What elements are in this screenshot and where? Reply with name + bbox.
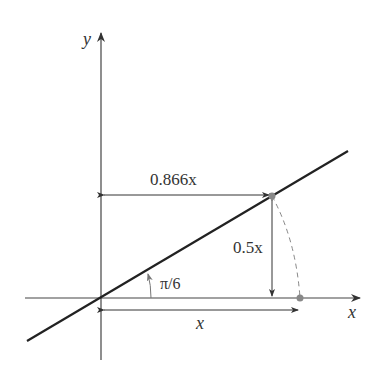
y-axis-label: y <box>81 29 91 49</box>
rotated-point <box>269 193 276 200</box>
base-label: x <box>195 313 204 333</box>
x-axis-point <box>297 295 304 302</box>
unit-rotation-diagram: y x 0.866x 0.5x π/6 x <box>0 0 386 373</box>
rotation-arc <box>272 196 300 298</box>
angle-label: π/6 <box>160 275 181 292</box>
vertical-label: 0.5x <box>233 238 263 257</box>
angle-arc <box>148 274 151 298</box>
horizontal-label: 0.866x <box>150 170 197 189</box>
x-axis-label: x <box>347 302 356 322</box>
